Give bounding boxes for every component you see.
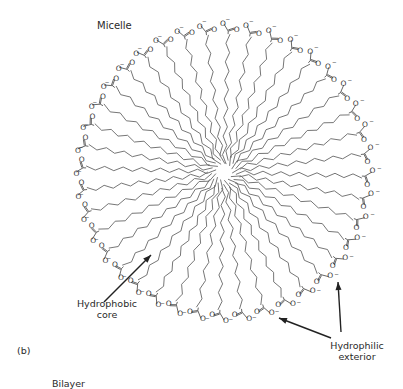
- negative-charge: −: [294, 32, 299, 38]
- negative-charge: −: [158, 33, 163, 39]
- hydrophobic-core-label: Hydrophobic core: [76, 298, 138, 320]
- carbonyl-oxygen: O: [146, 289, 152, 298]
- panel-label: (b): [17, 345, 30, 356]
- anion-oxygen: O: [327, 271, 333, 280]
- micelle-diagram: OO−OO−OO−OO−OO−OO−OO−OO−OO−OO−OO−OO−OO−O…: [0, 0, 403, 389]
- negative-charge: −: [94, 236, 99, 242]
- negative-charge: −: [140, 288, 145, 294]
- anion-oxygen: O: [325, 62, 331, 71]
- negative-charge: −: [360, 97, 365, 103]
- negative-charge: −: [182, 309, 187, 315]
- surfactant-chain: OO−: [76, 172, 208, 201]
- surfactant-chain: OO−: [101, 74, 216, 163]
- anion-oxygen: O: [342, 253, 348, 262]
- negative-charge: −: [375, 141, 380, 147]
- carbonyl-oxygen: O: [187, 307, 193, 316]
- carbonyl-oxygen: O: [277, 36, 283, 45]
- surfactant-chain: OO−: [224, 184, 258, 322]
- anion-oxygen: O: [340, 79, 346, 88]
- surfactant-chain: OO−: [239, 175, 380, 211]
- negative-charge: −: [79, 191, 84, 197]
- carbonyl-oxygen: O: [234, 25, 240, 34]
- carbonyl-oxygen: O: [166, 299, 172, 308]
- carbonyl-oxygen: O: [354, 114, 360, 123]
- negative-charge: −: [138, 45, 143, 51]
- surfactant-chain: OO−: [73, 155, 216, 178]
- negative-charge: −: [349, 253, 354, 259]
- carbonyl-oxygen: O: [330, 261, 336, 270]
- surfactant-chain: OO−: [174, 24, 221, 156]
- negative-charge: −: [297, 299, 302, 305]
- carbonyl-oxygen: O: [129, 58, 135, 67]
- surfactant-chain: OO−: [231, 23, 284, 158]
- surfactant-chain: OO−: [229, 183, 321, 299]
- carbonyl-oxygen: O: [343, 243, 349, 252]
- arrowhead-icon: [279, 318, 288, 324]
- negative-charge: −: [369, 118, 374, 124]
- anion-oxygen: O: [287, 35, 293, 44]
- carbonyl-oxygen: O: [79, 155, 85, 164]
- hydrophilic-exterior-line-1: Hydrophilic: [326, 340, 388, 351]
- negative-charge: −: [226, 16, 231, 22]
- carbonyl-oxygen: O: [189, 28, 195, 37]
- hydrophilic-exterior-line-2: exterior: [326, 351, 388, 362]
- negative-charge: −: [79, 144, 84, 150]
- carbonyl-oxygen: O: [89, 221, 95, 230]
- hydrophilic-exterior-arrow-1: [279, 318, 331, 338]
- negative-charge: −: [361, 233, 366, 239]
- surfactant-chain: OO−: [89, 92, 218, 167]
- carbonyl-oxygen: O: [353, 223, 359, 232]
- micelle-title: Micelle: [97, 20, 132, 31]
- negative-charge: −: [84, 121, 89, 127]
- anion-oxygen: O: [354, 233, 360, 242]
- surfactant-chain: OO−: [112, 179, 214, 282]
- carbonyl-oxygen: O: [99, 241, 105, 250]
- carbonyl-oxygen: O: [297, 46, 303, 55]
- negative-charge: −: [348, 77, 353, 83]
- carbonyl-oxygen: O: [113, 74, 119, 83]
- negative-charge: −: [106, 255, 111, 261]
- surfactant-chain: OO−: [187, 180, 223, 324]
- carbonyl-oxygen: O: [112, 260, 118, 269]
- negative-charge: −: [179, 24, 184, 30]
- negative-charge: −: [120, 61, 125, 67]
- anion-oxygen: O: [362, 120, 368, 129]
- surfactant-chain: OO−: [236, 165, 382, 189]
- negative-charge: −: [334, 271, 339, 277]
- carbonyl-oxygen: O: [256, 29, 262, 38]
- negative-charge: −: [122, 273, 127, 279]
- anion-oxygen: O: [368, 189, 374, 198]
- negative-charge: −: [376, 188, 381, 194]
- negative-charge: −: [105, 79, 110, 85]
- carbonyl-oxygen: O: [315, 59, 321, 68]
- surfactant-chain: OO−: [89, 174, 216, 246]
- surfactant-chain: OO−: [146, 185, 215, 309]
- carbonyl-oxygen: O: [209, 310, 215, 319]
- surfactant-chain: OO−: [237, 59, 337, 163]
- bilayer-title: Bilayer: [52, 378, 85, 389]
- surfactant-chain: OO−: [166, 183, 219, 318]
- micelle-chains: OO−OO−OO−OO−OO−OO−OO−OO−OO−OO−OO−OO−OO−O…: [73, 16, 382, 325]
- anion-oxygen: O: [370, 166, 376, 175]
- carbonyl-oxygen: O: [90, 112, 96, 121]
- negative-charge: −: [377, 165, 382, 171]
- hydrophobic-core-line-2: core: [76, 309, 138, 320]
- hydrophilic-exterior-label: Hydrophilic exterior: [326, 340, 388, 362]
- carbonyl-oxygen: O: [361, 135, 367, 144]
- carbonyl-oxygen: O: [83, 133, 89, 142]
- anion-oxygen: O: [307, 47, 313, 56]
- surfactant-chain: OO−: [99, 179, 210, 264]
- negative-charge: −: [229, 316, 234, 322]
- surfactant-chain: OO−: [232, 141, 380, 173]
- carbonyl-oxygen: O: [361, 202, 367, 211]
- arrowhead-icon: [336, 282, 342, 290]
- carbonyl-oxygen: O: [211, 25, 217, 34]
- surfactant-chain: OO−: [230, 32, 304, 166]
- carbonyl-oxygen: O: [168, 35, 174, 44]
- anion-oxygen: O: [368, 143, 374, 152]
- negative-charge: −: [272, 23, 277, 29]
- carbonyl-oxygen: O: [344, 94, 350, 103]
- carbonyl-oxygen: O: [295, 290, 301, 299]
- anion-oxygen: O: [290, 299, 296, 308]
- negative-charge: −: [249, 18, 254, 24]
